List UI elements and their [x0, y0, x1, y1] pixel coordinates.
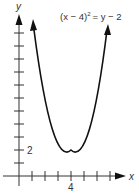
y-tick-label-2: 2	[27, 145, 33, 156]
equation-label: (x − 4)2= y − 2	[60, 11, 122, 22]
equation-rhs: = y − 2	[93, 11, 122, 22]
curve-right-arrow-icon	[104, 24, 111, 35]
x-axis-arrow-icon	[115, 173, 126, 180]
parabola-curve	[34, 30, 107, 152]
equation-lhs: (x − 4)	[60, 11, 87, 22]
y-axis-label: y	[15, 1, 22, 12]
x-axis-label: x	[128, 171, 135, 182]
x-tick-label-4: 4	[68, 182, 74, 193]
curve-left-arrow-icon	[30, 19, 37, 31]
equation-exponent: 2	[87, 11, 91, 17]
y-axis-arrow-icon	[16, 14, 23, 25]
parabola-graph: y x 2 4 (x − 4)2= y − 2	[0, 0, 139, 195]
